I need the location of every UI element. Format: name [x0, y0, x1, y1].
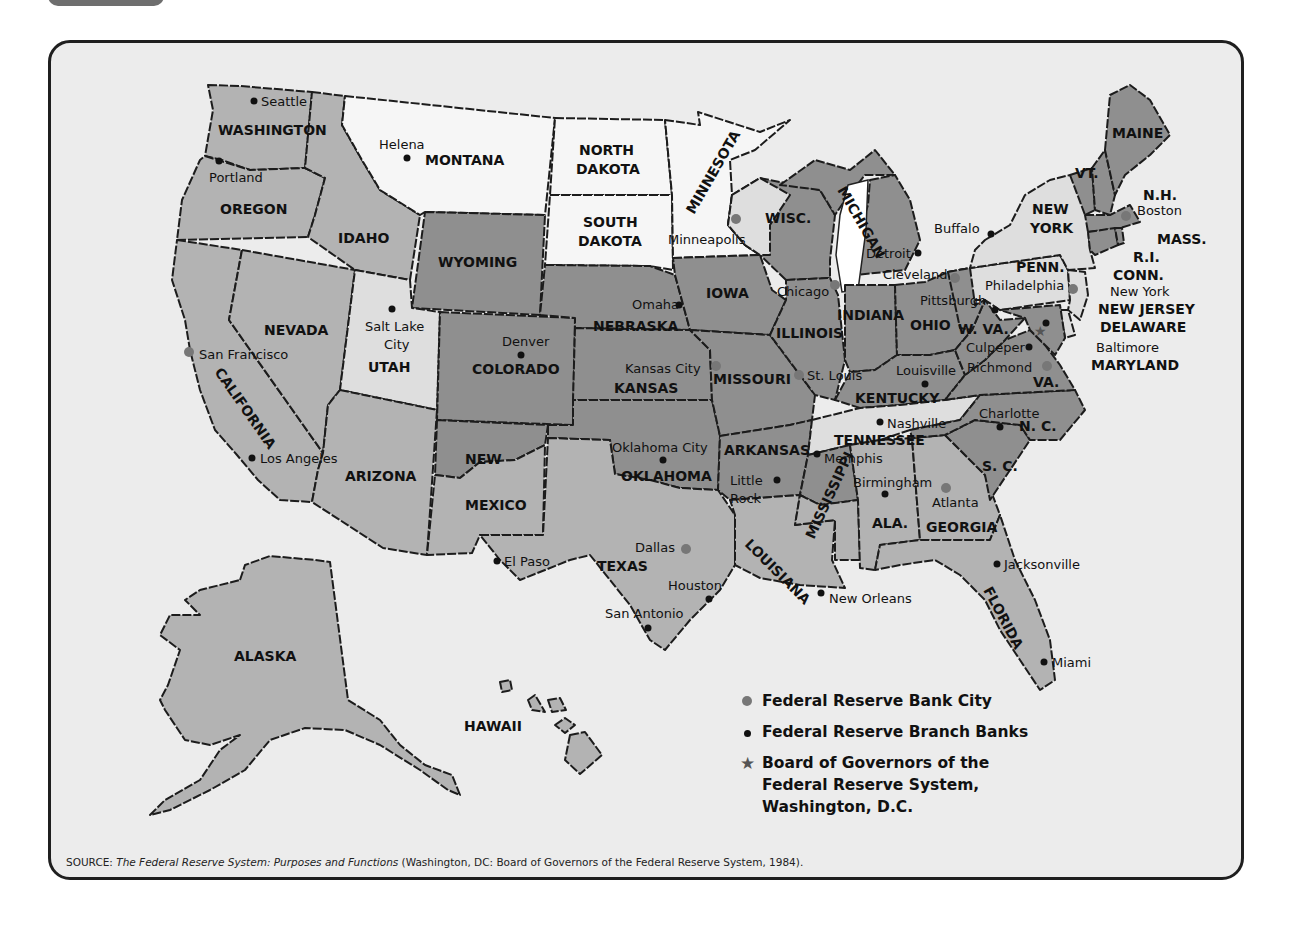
- dot-denver: [518, 352, 525, 359]
- source-prefix: SOURCE:: [66, 856, 116, 868]
- city-portland: Portland: [209, 170, 263, 185]
- city-seattle: Seattle: [261, 94, 307, 109]
- label-new: NEW: [465, 451, 502, 467]
- dot-cleveland: [950, 273, 960, 283]
- legend-item-board-of-governors: ★ Board of Governors of the Federal Rese…: [740, 752, 1028, 818]
- city-pittsburgh: Pittsburgh: [920, 293, 986, 308]
- dot-birmingham: [882, 491, 889, 498]
- hawaii-island-big: [565, 732, 602, 774]
- label-wisc: WISC.: [765, 210, 811, 226]
- dot-chicago: [830, 280, 840, 290]
- hawaii-island-4: [555, 718, 575, 733]
- branch-bank-dot-icon: [744, 730, 751, 737]
- label-oklahoma: OKLAHOMA: [621, 468, 712, 484]
- label-nh: N.H.: [1143, 187, 1177, 203]
- legend-item-branch-bank: Federal Reserve Branch Banks: [740, 721, 1028, 743]
- label-kentucky: KENTUCKY: [855, 390, 940, 406]
- city-birmingham: Birmingham: [853, 475, 932, 490]
- city-buffalo: Buffalo: [934, 221, 980, 236]
- label-utah: UTAH: [368, 359, 410, 375]
- city-chicago: Chicago: [777, 284, 829, 299]
- city-miami: Miami: [1052, 655, 1091, 670]
- dot-culpeper: [1026, 344, 1033, 351]
- city-el-paso: El Paso: [504, 554, 550, 569]
- city-salt-lake: Salt Lake: [365, 319, 424, 334]
- label-tennessee: TENNESSEE: [834, 432, 925, 448]
- city-los-angeles: Los Angeles: [260, 451, 338, 466]
- label-north-dakota: DAKOTA: [576, 161, 640, 177]
- city-helena: Helena: [379, 137, 425, 152]
- city-atlanta: Atlanta: [932, 495, 979, 510]
- dot-little-rock: [774, 477, 781, 484]
- label-montana: MONTANA: [425, 152, 505, 168]
- city-san-francisco: San Francisco: [199, 347, 288, 362]
- dot-seattle: [251, 98, 258, 105]
- label-texas: TEXAS: [597, 558, 648, 574]
- label-south-dakota: DAKOTA: [578, 233, 642, 249]
- city-baltimore: Baltimore: [1096, 340, 1159, 355]
- city-little: Little: [730, 473, 763, 488]
- dot-san-francisco: [184, 347, 194, 357]
- state-new-jersey: [1068, 270, 1088, 320]
- dot-jacksonville: [994, 561, 1001, 568]
- label-ohio: OHIO: [910, 317, 951, 333]
- label-new-mexico: MEXICO: [465, 497, 527, 513]
- city-san-antonio: San Antonio: [605, 606, 684, 621]
- city-new-orleans: New Orleans: [829, 591, 912, 606]
- label-arkansas: ARKANSAS: [724, 442, 810, 458]
- label-wyoming: WYOMING: [438, 254, 517, 270]
- label-delaware: DELAWARE: [1100, 319, 1186, 335]
- city-kansas-city: Kansas City: [625, 361, 701, 376]
- legend-label-board-of-governors: Board of Governors of the Federal Reserv…: [762, 752, 989, 818]
- dot-philadelphia: [1068, 284, 1078, 294]
- city-houston: Houston: [668, 578, 722, 593]
- dot-helena: [404, 155, 411, 162]
- label-colorado: COLORADO: [472, 361, 560, 377]
- dc-star-icon: ★: [1034, 323, 1047, 339]
- label-new-jersey: NEW JERSEY: [1098, 301, 1196, 317]
- label-penn: PENN.: [1016, 259, 1065, 275]
- label-conn: CONN.: [1113, 267, 1164, 283]
- dot-los-angeles: [249, 455, 256, 462]
- dot-oklahoma-city: [660, 457, 667, 464]
- city-new-york: New York: [1110, 284, 1170, 299]
- legend-line-2: Federal Reserve System,: [762, 776, 979, 794]
- legend-item-reserve-bank: Federal Reserve Bank City: [740, 690, 1028, 712]
- label-south: SOUTH: [583, 214, 638, 230]
- city-jacksonville: Jacksonville: [1003, 557, 1080, 572]
- label-nevada: NEVADA: [264, 322, 329, 338]
- city-minneapolis: Minneapolis: [668, 232, 746, 247]
- city-memphis: Memphis: [824, 451, 883, 466]
- city-oklahoma-city: Oklahoma City: [612, 440, 708, 455]
- dot-salt-lake-city: [389, 306, 396, 313]
- label-kansas: KANSAS: [614, 380, 678, 396]
- legend-line-3: Washington, D.C.: [762, 798, 913, 816]
- label-alaska: ALASKA: [234, 648, 297, 664]
- dot-richmond: [1042, 361, 1052, 371]
- label-north: NORTH: [579, 142, 634, 158]
- label-ala: ALA.: [872, 515, 908, 531]
- label-idaho: IDAHO: [338, 230, 389, 246]
- label-new-york-2: YORK: [1029, 220, 1074, 236]
- dot-detroit: [915, 250, 922, 257]
- label-nebraska: NEBRASKA: [593, 318, 678, 334]
- city-richmond: Richmond: [967, 360, 1032, 375]
- label-vt: VT.: [1075, 165, 1099, 181]
- star-icon: ★: [740, 752, 754, 774]
- label-wva: W. VA.: [958, 321, 1009, 337]
- hawaii-island-1: [500, 680, 512, 692]
- city-salt-lake-city: City: [384, 337, 410, 352]
- dot-el-paso: [494, 558, 501, 565]
- city-little-rock: Rock: [730, 491, 762, 506]
- label-sc: S. C.: [982, 458, 1018, 474]
- dot-nashville: [877, 419, 884, 426]
- label-indiana: INDIANA: [837, 307, 904, 323]
- label-illinois: ILLINOIS: [776, 325, 843, 341]
- us-federal-reserve-map: WASHINGTON OREGON IDAHO MONTANA NORTH DA…: [0, 0, 1301, 947]
- legend-label-reserve-bank: Federal Reserve Bank City: [762, 690, 992, 712]
- label-va: VA.: [1033, 374, 1059, 390]
- label-mass: MASS.: [1157, 231, 1207, 247]
- dot-charlotte: [997, 424, 1004, 431]
- legend-line-1: Board of Governors of the: [762, 754, 989, 772]
- label-missouri: MISSOURI: [713, 371, 791, 387]
